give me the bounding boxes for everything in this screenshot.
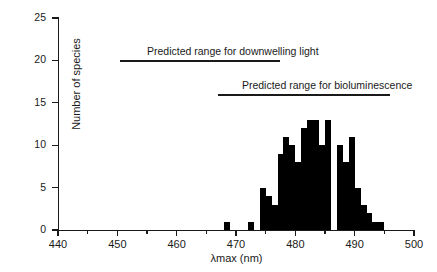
y-axis-title: Number of species [70,24,82,144]
histogram-bar [325,120,331,230]
x-tick-label-500: 500 [394,238,434,250]
histogram-figure: 0510152025 440450460470480490500 Predict… [0,0,437,272]
x-tick-label-450: 450 [97,238,137,250]
y-tick-label-0: 0 [20,224,46,235]
histogram-bar [224,222,230,230]
downwelling-light-range-label: Predicted range for downwelling light [147,45,319,57]
x-tick-470 [235,230,236,236]
y-tick-label-10: 10 [20,139,46,150]
histogram-bar [248,222,254,230]
y-tick-label-15: 15 [20,97,46,108]
x-tick-label-440: 440 [38,238,78,250]
x-tick-label-490: 490 [335,238,375,250]
x-tick-500 [413,230,414,236]
x-minor-tick-455 [146,230,147,234]
x-minor-tick-495 [384,230,385,234]
x-minor-tick-475 [265,230,266,234]
x-tick-490 [354,230,355,236]
histogram-bar [378,222,384,230]
x-tick-460 [176,230,177,236]
x-tick-label-480: 480 [275,238,315,250]
x-tick-440 [57,230,58,236]
x-minor-tick-485 [324,230,325,234]
x-tick-label-470: 470 [216,238,256,250]
x-minor-tick-445 [87,230,88,234]
plot-area: Predicted range for downwelling lightPre… [58,18,414,230]
x-axis-title: λmax (nm) [58,252,415,264]
downwelling-light-range-bar [120,60,280,62]
x-tick-480 [295,230,296,236]
bioluminescence-range-label: Predicted range for bioluminescence [242,79,412,91]
x-minor-tick-465 [206,230,207,234]
bioluminescence-range-bar [218,94,390,96]
y-tick-label-25: 25 [20,12,46,23]
y-tick-label-5: 5 [20,182,46,193]
y-tick-label-20: 20 [20,54,46,65]
x-tick-label-460: 460 [157,238,197,250]
x-tick-450 [117,230,118,236]
